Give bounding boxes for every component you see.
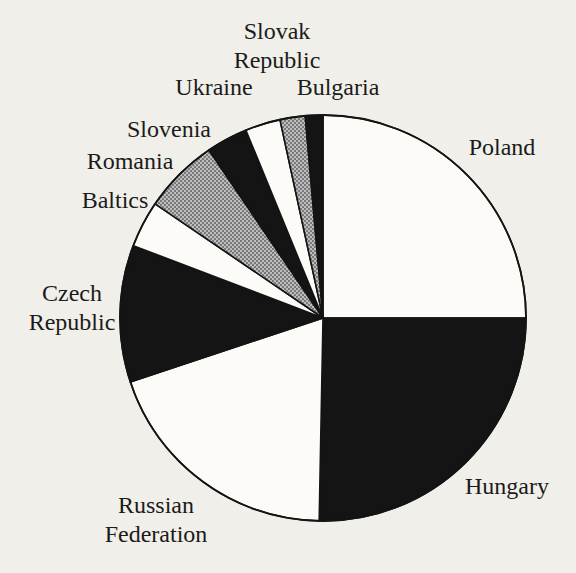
chart-figure: SlovakRepublicUkraineBulgariaSloveniaRom… — [0, 0, 576, 573]
pie-label-czech-republic: CzechRepublic — [29, 280, 116, 335]
pie-label-slovenia: Slovenia — [127, 116, 211, 142]
pie-label-romania: Romania — [87, 148, 174, 174]
pie-label-bulgaria: Bulgaria — [297, 74, 380, 100]
pie-label-russian-federation: RussianFederation — [105, 492, 208, 547]
pie-label-slovak-republic: SlovakRepublic — [234, 18, 321, 73]
pie-chart: SlovakRepublicUkraineBulgariaSloveniaRom… — [0, 0, 576, 573]
pie-label-baltics: Baltics — [82, 187, 149, 213]
pie-label-hungary: Hungary — [465, 473, 549, 499]
pie-label-ukraine: Ukraine — [175, 74, 252, 100]
pie-label-poland: Poland — [469, 134, 536, 160]
